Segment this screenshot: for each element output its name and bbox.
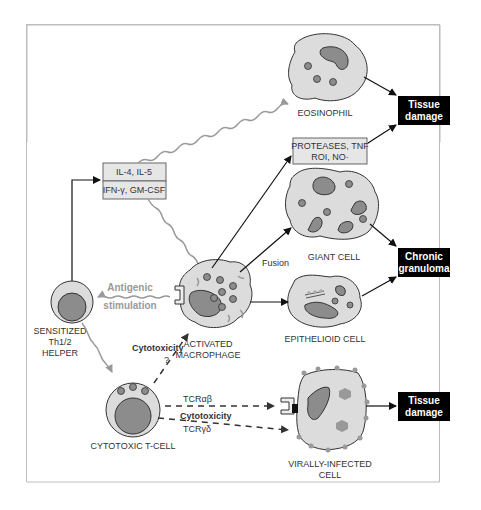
sensitized-helper-cell (51, 281, 93, 323)
activated-macrophage-cell (175, 260, 252, 328)
tissue-damage-1-line2: damage (405, 111, 443, 122)
mediators-line1: PROTEASES, TNF (291, 141, 369, 151)
tissue-damage-2-line2: damage (405, 407, 443, 418)
helper-label-line1: SENSITIZED (33, 326, 87, 336)
giant-cell-label: GIANT CELL (308, 252, 360, 262)
virally-infected-cell (281, 366, 370, 453)
giant-cell (285, 168, 378, 239)
macrophage-label-line1: ACTIVATED (183, 339, 233, 349)
cytokines-top-label: IL-4, IL-5 (116, 167, 152, 177)
helper-label-line2: Th1/2 (48, 337, 71, 347)
mediators-line2: ROI, NO· (311, 152, 349, 162)
antigenic-label-line2: stimulation (103, 300, 156, 311)
antigenic-label-line1: Antigenic (107, 282, 153, 293)
tissue-damage-1-line1: Tissue (408, 99, 440, 110)
diagram-frame (27, 25, 440, 483)
virally-infected-label-line1: VIRALLY-INFECTED (288, 459, 372, 469)
epithelioid-cell (288, 275, 362, 327)
cytotoxic-t-cell-label: CYTOTOXIC T-CELL (90, 441, 175, 451)
tcr-ab-label: TCRαβ (183, 394, 212, 404)
question-mark-label: ? (164, 355, 169, 365)
tissue-damage-2-line1: Tissue (408, 395, 440, 406)
chronic-granuloma-line1: Chronic (405, 251, 443, 262)
fusion-label: Fusion (262, 258, 289, 268)
immune-diagram: EOSINOPHIL Tissue damage PROTEASES, TNF … (0, 0, 481, 510)
epithelioid-cell-label: EPITHELIOID CELL (284, 334, 365, 344)
frame-border (27, 25, 440, 142)
eosinophil-label: EOSINOPHIL (297, 108, 352, 118)
cytotoxicity-virus-label: Cytotoxicity (180, 411, 232, 421)
tcr-gd-label: TCRγδ (183, 424, 211, 434)
virally-infected-label-line2: CELL (319, 470, 342, 480)
macrophage-label-line2: MACROPHAGE (175, 350, 240, 360)
cytokines-bottom-label: IFN-γ, GM-CSF (103, 185, 166, 195)
helper-label-line3: HELPER (42, 348, 79, 358)
chronic-granuloma-line2: granuloma (398, 263, 450, 274)
cytotoxicity-macrophage-label: Cytotoxicity (132, 343, 184, 353)
cytotoxic-t-cell (106, 383, 160, 437)
eosinophil-cell (289, 34, 368, 101)
